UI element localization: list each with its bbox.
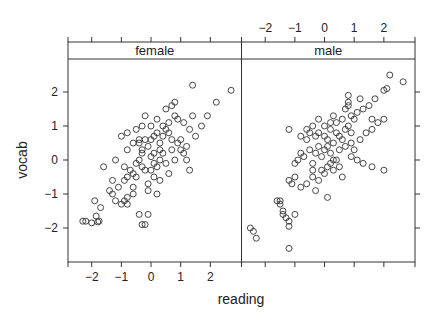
data-point bbox=[154, 116, 160, 122]
data-point bbox=[333, 120, 339, 126]
data-point bbox=[372, 96, 378, 102]
data-point bbox=[228, 87, 234, 93]
data-point bbox=[142, 113, 148, 119]
data-point bbox=[187, 126, 193, 132]
data-point bbox=[316, 116, 322, 122]
data-point bbox=[148, 167, 154, 173]
data-point bbox=[193, 133, 199, 139]
data-point bbox=[345, 92, 351, 98]
strip-label-female: female bbox=[135, 43, 174, 58]
data-point bbox=[381, 167, 387, 173]
data-point bbox=[336, 164, 342, 170]
strip-label-male: male bbox=[314, 43, 342, 58]
data-point bbox=[130, 191, 136, 197]
data-point bbox=[310, 123, 316, 129]
y-tick-label: −2 bbox=[44, 221, 58, 235]
data-point bbox=[163, 160, 169, 166]
data-point bbox=[136, 211, 142, 217]
data-point bbox=[98, 205, 104, 211]
data-point bbox=[310, 160, 316, 166]
data-point bbox=[354, 109, 360, 115]
data-point bbox=[121, 164, 127, 170]
data-point bbox=[313, 150, 319, 156]
data-point bbox=[313, 188, 319, 194]
data-point bbox=[199, 123, 205, 129]
data-point bbox=[190, 113, 196, 119]
data-point bbox=[145, 143, 151, 149]
data-point bbox=[124, 130, 130, 136]
data-point bbox=[351, 147, 357, 153]
data-point bbox=[348, 140, 354, 146]
data-point bbox=[139, 123, 145, 129]
data-point bbox=[354, 157, 360, 163]
data-point bbox=[328, 126, 334, 132]
data-point bbox=[113, 198, 119, 204]
data-point bbox=[348, 130, 354, 136]
x-tick-label: −1 bbox=[288, 21, 302, 35]
data-point bbox=[328, 120, 334, 126]
data-point bbox=[348, 154, 354, 160]
data-point bbox=[187, 167, 193, 173]
data-point bbox=[330, 140, 336, 146]
x-axis-label: reading bbox=[218, 291, 265, 307]
data-point bbox=[184, 157, 190, 163]
data-point bbox=[181, 120, 187, 126]
data-point bbox=[360, 160, 366, 166]
data-point bbox=[160, 133, 166, 139]
data-point bbox=[151, 174, 157, 180]
data-point bbox=[169, 137, 175, 143]
x-tick-label: 0 bbox=[148, 270, 155, 284]
data-point bbox=[145, 188, 151, 194]
data-point bbox=[204, 113, 210, 119]
data-point bbox=[157, 157, 163, 163]
x-tick-label: −1 bbox=[115, 270, 129, 284]
data-point bbox=[163, 106, 169, 112]
data-point bbox=[157, 140, 163, 146]
data-point bbox=[322, 123, 328, 129]
data-point bbox=[292, 174, 298, 180]
data-point bbox=[330, 113, 336, 119]
data-point bbox=[360, 106, 366, 112]
axes: −2−1012−2−1012−2−1012 bbox=[44, 21, 420, 284]
data-point bbox=[286, 245, 292, 251]
data-point bbox=[328, 150, 334, 156]
data-point bbox=[369, 116, 375, 122]
data-point bbox=[339, 116, 345, 122]
x-tick-label: −2 bbox=[258, 21, 272, 35]
data-point bbox=[319, 154, 325, 160]
panel-male: male bbox=[247, 43, 406, 251]
x-tick-label: 1 bbox=[177, 270, 184, 284]
data-point bbox=[307, 147, 313, 153]
data-point bbox=[292, 211, 298, 217]
data-point bbox=[298, 133, 304, 139]
data-point bbox=[342, 143, 348, 149]
x-tick-label: 2 bbox=[381, 21, 388, 35]
data-point bbox=[172, 157, 178, 163]
data-point bbox=[400, 79, 406, 85]
data-point bbox=[130, 184, 136, 190]
data-point bbox=[316, 177, 322, 183]
data-point bbox=[145, 211, 151, 217]
data-point bbox=[357, 137, 363, 143]
data-point bbox=[166, 120, 172, 126]
data-point bbox=[115, 184, 121, 190]
data-point bbox=[154, 191, 160, 197]
data-point bbox=[366, 103, 372, 109]
data-point bbox=[133, 126, 139, 132]
data-point bbox=[101, 164, 107, 170]
data-point bbox=[363, 130, 369, 136]
x-tick-label: 1 bbox=[351, 21, 358, 35]
data-point bbox=[89, 220, 95, 226]
data-point bbox=[330, 167, 336, 173]
data-point bbox=[213, 99, 219, 105]
data-point bbox=[304, 181, 310, 187]
data-point bbox=[148, 123, 154, 129]
scatter-lattice-chart: female male −2−1012−2−1012−2−1012 readin… bbox=[0, 0, 442, 328]
data-point bbox=[310, 174, 316, 180]
data-point bbox=[166, 171, 172, 177]
data-point bbox=[113, 157, 119, 163]
data-point bbox=[142, 137, 148, 143]
data-point bbox=[92, 198, 98, 204]
data-point bbox=[130, 140, 136, 146]
x-tick-label: 2 bbox=[207, 270, 214, 284]
